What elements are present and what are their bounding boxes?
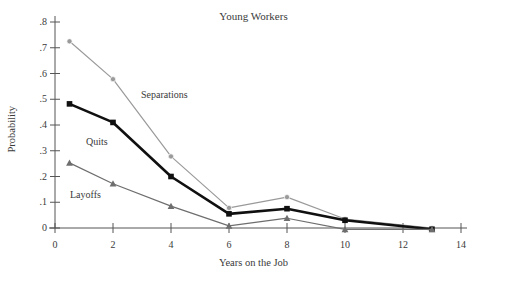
y-axis-tick-label: .8	[21, 17, 47, 27]
data-point-quits-5[interactable]	[342, 217, 348, 223]
plot-area	[0, 0, 507, 285]
data-point-quits-4[interactable]	[284, 206, 290, 212]
data-point-separations-2[interactable]	[168, 154, 173, 159]
data-point-separations-0[interactable]	[67, 39, 72, 44]
x-axis-tick-label: 8	[274, 240, 300, 250]
data-point-layoffs-0[interactable]	[66, 159, 73, 165]
x-axis-tick-label: 2	[100, 240, 126, 250]
x-axis-tick-label: 14	[448, 240, 474, 250]
series-label-separations: Separations	[141, 90, 188, 100]
series-line-separations	[70, 41, 433, 228]
series-label-layoffs: Layoffs	[70, 190, 101, 200]
data-point-separations-4[interactable]	[284, 195, 289, 200]
data-point-quits-1[interactable]	[110, 120, 116, 126]
data-point-quits-2[interactable]	[168, 174, 174, 180]
y-axis-tick-label: .1	[21, 197, 47, 207]
x-axis-tick-label: 6	[216, 240, 242, 250]
x-axis-tick-label: 0	[42, 240, 68, 250]
data-point-quits-3[interactable]	[226, 211, 232, 217]
chart-container: Young Workers Probability Years on the J…	[0, 0, 507, 285]
data-point-layoffs-1[interactable]	[110, 180, 117, 186]
data-point-separations-3[interactable]	[226, 205, 231, 210]
y-axis-tick-label: .3	[21, 146, 47, 156]
y-axis-tick-label: .7	[21, 43, 47, 53]
y-axis-tick-label: 0	[21, 223, 47, 233]
y-axis-tick-label: .5	[21, 94, 47, 104]
series-line-layoffs	[70, 163, 433, 229]
series-line-quits	[70, 104, 433, 229]
y-axis-tick-label: .2	[21, 172, 47, 182]
data-point-layoffs-2[interactable]	[168, 203, 175, 209]
data-point-quits-0[interactable]	[67, 101, 73, 107]
x-axis-tick-label: 12	[390, 240, 416, 250]
series-label-quits: Quits	[86, 137, 108, 147]
y-axis-tick-label: .4	[21, 120, 47, 130]
x-axis-tick-label: 4	[158, 240, 184, 250]
data-point-separations-1[interactable]	[110, 77, 115, 82]
y-axis-tick-label: .6	[21, 69, 47, 79]
x-axis-tick-label: 10	[332, 240, 358, 250]
